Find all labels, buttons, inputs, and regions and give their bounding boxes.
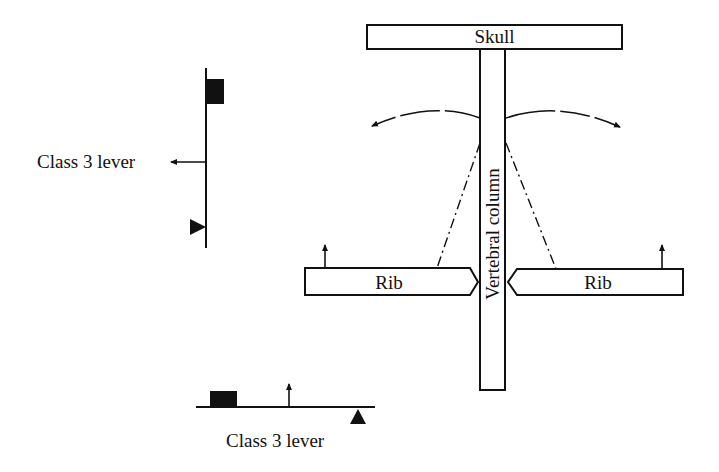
left-curved-arrow-icon xyxy=(372,111,480,126)
horizontal-lever-label: Class 3 lever xyxy=(226,431,324,450)
vertical-lever-weight xyxy=(206,79,224,104)
right-muscle-line xyxy=(506,143,556,269)
vertical-lever-fulcrum-icon xyxy=(190,219,206,235)
left-rib-label: Rib xyxy=(305,273,473,292)
horizontal-lever-weight xyxy=(210,391,237,407)
vertical-lever-label: Class 3 lever xyxy=(37,152,135,171)
left-muscle-line xyxy=(437,143,480,268)
horizontal-lever-fulcrum-icon xyxy=(350,409,366,424)
vertebral-column-label: Vertebral column xyxy=(483,168,502,299)
skull-label: Skull xyxy=(367,27,622,46)
rib-lever-diagram xyxy=(0,0,719,472)
right-curved-arrow-icon xyxy=(506,111,620,127)
right-rib-label: Rib xyxy=(512,273,684,292)
